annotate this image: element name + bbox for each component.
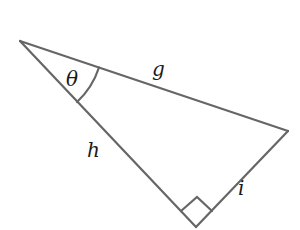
label-theta: θ bbox=[66, 67, 78, 91]
label-g: g bbox=[152, 57, 165, 81]
label-h: h bbox=[87, 138, 100, 162]
side-h bbox=[20, 41, 196, 227]
label-i: i bbox=[238, 176, 244, 200]
side-g-hypotenuse bbox=[20, 41, 288, 131]
right-triangle-diagram: θ g h i bbox=[0, 0, 300, 230]
angle-theta-arc bbox=[77, 68, 99, 103]
right-angle-marker bbox=[181, 197, 212, 211]
